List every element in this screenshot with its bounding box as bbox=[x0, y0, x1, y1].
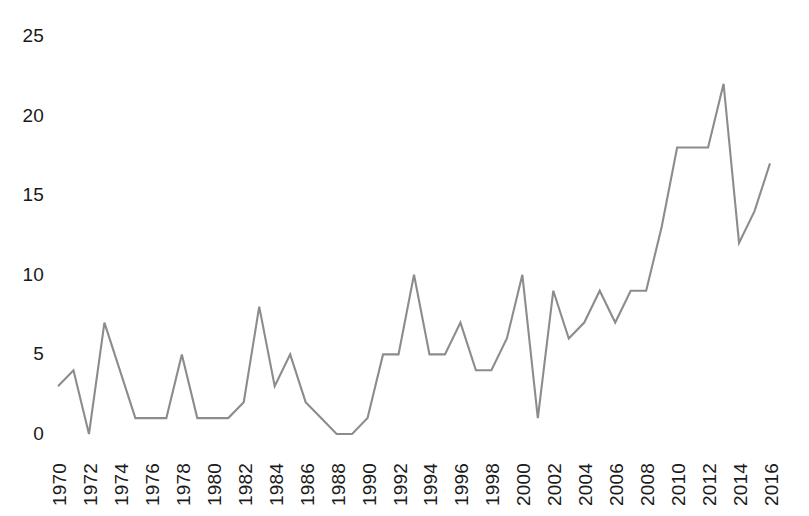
x-axis-tick-label: 1992 bbox=[391, 463, 410, 506]
y-axis-tick-label: 25 bbox=[0, 26, 44, 45]
y-axis-tick-label: 20 bbox=[0, 106, 44, 125]
x-axis-tick-label: 1970 bbox=[50, 463, 69, 506]
x-axis-tick-label: 1974 bbox=[112, 463, 131, 506]
x-axis-tick-label: 1972 bbox=[81, 463, 100, 506]
y-axis-tick-label: 10 bbox=[0, 265, 44, 284]
chart-plot-area bbox=[0, 0, 809, 516]
y-axis-tick-label: 0 bbox=[0, 424, 44, 443]
line-chart: 0510152025 19701972197419761978198019821… bbox=[0, 0, 809, 516]
data-series-line bbox=[58, 84, 770, 434]
y-axis-tick-label: 5 bbox=[0, 344, 44, 363]
x-axis-tick-label: 1980 bbox=[205, 463, 224, 506]
x-axis-tick-label: 1984 bbox=[267, 463, 286, 506]
x-axis-tick-label: 2014 bbox=[731, 463, 750, 506]
x-axis-tick-label: 2008 bbox=[638, 463, 657, 506]
x-axis-tick-label: 1976 bbox=[143, 463, 162, 506]
x-axis-tick-label: 1996 bbox=[452, 463, 471, 506]
x-axis-tick-label: 1998 bbox=[483, 463, 502, 506]
x-axis-tick-label: 2016 bbox=[762, 463, 781, 506]
x-axis-tick-label: 1994 bbox=[421, 463, 440, 506]
x-axis-tick-label: 2004 bbox=[576, 463, 595, 506]
x-axis-tick-label: 2012 bbox=[700, 463, 719, 506]
y-axis-tick-label: 15 bbox=[0, 185, 44, 204]
x-axis-tick-label: 2000 bbox=[514, 463, 533, 506]
x-axis-tick-label: 2010 bbox=[669, 463, 688, 506]
x-axis-tick-label: 1978 bbox=[174, 463, 193, 506]
x-axis-tick-label: 2002 bbox=[545, 463, 564, 506]
x-axis-tick-label: 1982 bbox=[236, 463, 255, 506]
x-axis-tick-label: 1986 bbox=[298, 463, 317, 506]
x-axis-tick-label: 1990 bbox=[360, 463, 379, 506]
x-axis-tick-label: 1988 bbox=[329, 463, 348, 506]
x-axis-tick-label: 2006 bbox=[607, 463, 626, 506]
